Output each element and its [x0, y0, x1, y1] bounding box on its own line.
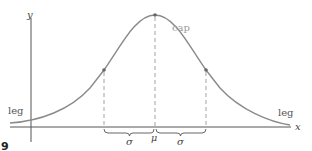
right-sigma-label: σ [177, 136, 185, 147]
right-inflection-point [204, 68, 208, 72]
corner-mark: 9 [1, 140, 9, 151]
cap-label: cap [172, 22, 190, 33]
bell-curve [10, 15, 290, 125]
left-sigma-label: σ [126, 136, 134, 147]
mean-label: μ [151, 132, 157, 143]
left-sigma-brace [104, 129, 154, 136]
x-axis-label: x [295, 121, 301, 132]
right-leg-label: leg [278, 107, 294, 118]
left-leg-label: leg [8, 105, 24, 116]
left-inflection-point [102, 68, 106, 72]
right-sigma-brace [156, 129, 206, 136]
peak-point [153, 13, 157, 17]
y-axis-label: y [26, 9, 33, 20]
normal-distribution-diagram: y x cap leg leg μ σ σ 9 [0, 0, 312, 151]
diagram-canvas: y x cap leg leg μ σ σ 9 [0, 0, 312, 151]
